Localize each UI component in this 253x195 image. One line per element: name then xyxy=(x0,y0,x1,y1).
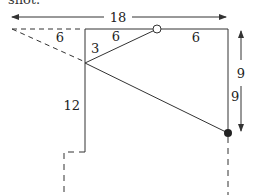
label-right-outer: 9 xyxy=(237,66,245,81)
label-left-upper: 3 xyxy=(91,41,99,56)
filled-dot-marker xyxy=(224,129,232,137)
diagram: shot. 18 6 6 6 3 12 9 9 xyxy=(0,0,253,195)
label-top-left-segment: 6 xyxy=(112,29,120,44)
label-left-lower: 12 xyxy=(63,98,80,113)
caption-fragment: shot. xyxy=(8,0,40,7)
diagonal-to-filled-point xyxy=(85,63,228,133)
open-circle-marker xyxy=(153,25,161,33)
label-right-inner: 9 xyxy=(231,89,239,104)
dashed-diagonal xyxy=(12,29,83,61)
label-dashed-segment: 6 xyxy=(56,30,64,45)
label-total-width: 18 xyxy=(110,10,127,25)
dashed-left-continuation xyxy=(64,152,85,195)
label-top-right-segment: 6 xyxy=(192,30,200,45)
